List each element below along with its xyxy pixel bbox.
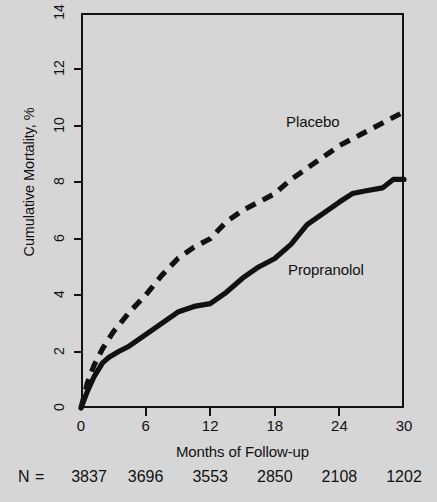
n-value-month-24: 2108 bbox=[311, 468, 367, 486]
n-value-month-18: 2850 bbox=[247, 468, 303, 486]
x-tick-label-30: 30 bbox=[384, 417, 424, 434]
propranolol-curve bbox=[81, 179, 404, 408]
x-tick-24 bbox=[338, 408, 340, 416]
n-value-month-0: 3837 bbox=[61, 468, 117, 486]
x-tick-label-18: 18 bbox=[255, 417, 295, 434]
x-axis-title: Months of Follow-up bbox=[81, 443, 404, 460]
n-value-month-12: 3553 bbox=[182, 468, 238, 486]
x-tick-6 bbox=[145, 408, 147, 416]
n-label: N = bbox=[18, 468, 45, 486]
x-tick-label-6: 6 bbox=[126, 417, 166, 434]
y-tick-label-8: 8 bbox=[51, 167, 67, 195]
y-tick-label-14: 14 bbox=[51, 0, 67, 26]
y-tick-label-2: 2 bbox=[51, 337, 67, 365]
placebo-label: Placebo bbox=[286, 113, 340, 130]
y-tick-label-10: 10 bbox=[51, 111, 67, 139]
n-value-month-30: 1202 bbox=[376, 468, 432, 486]
plot-curves bbox=[81, 13, 404, 408]
placebo-curve bbox=[81, 112, 404, 408]
x-tick-12 bbox=[209, 408, 211, 416]
y-tick-label-6: 6 bbox=[51, 224, 67, 252]
n-at-risk-row: N = 383736963553285021081202 bbox=[0, 468, 437, 494]
x-tick-label-0: 0 bbox=[61, 417, 101, 434]
propranolol-label: Propranolol bbox=[288, 261, 364, 278]
n-value-month-6: 3696 bbox=[118, 468, 174, 486]
x-tick-label-24: 24 bbox=[319, 417, 359, 434]
y-tick-label-4: 4 bbox=[51, 280, 67, 308]
x-tick-18 bbox=[274, 408, 276, 416]
x-tick-label-12: 12 bbox=[190, 417, 230, 434]
chart-figure: Cumulative Mortality, % 02468101214 Plac… bbox=[0, 0, 437, 502]
y-axis-title: Cumulative Mortality, % bbox=[21, 67, 37, 297]
y-tick-label-12: 12 bbox=[51, 54, 67, 82]
